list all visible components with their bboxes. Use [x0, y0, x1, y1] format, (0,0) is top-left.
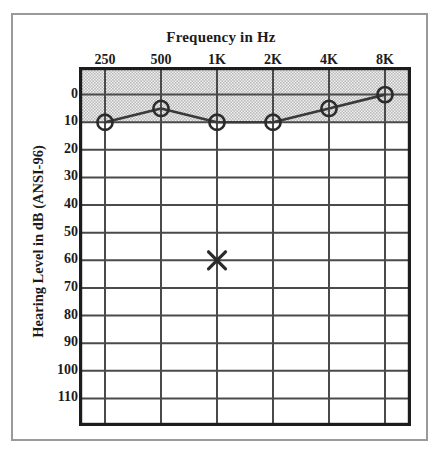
- y-tick-label-80: 80: [18, 307, 78, 323]
- air-conduction-marker: [265, 115, 280, 130]
- y-tick-label-50: 50: [18, 224, 78, 240]
- plot-area: [79, 67, 411, 426]
- air-conduction-marker: [377, 87, 392, 102]
- y-tick-label-100: 100: [18, 362, 78, 378]
- y-tick-label-0: 0: [18, 86, 78, 102]
- audiogram-figure: Frequency in Hz Hearing Level in dB (ANS…: [0, 0, 442, 458]
- air-conduction-marker: [97, 115, 112, 130]
- y-tick-label-110: 110: [18, 389, 78, 405]
- y-tick-label-70: 70: [18, 279, 78, 295]
- air-conduction-marker: [321, 101, 336, 116]
- y-tick-label-30: 30: [18, 168, 78, 184]
- air-conduction-marker: [153, 101, 168, 116]
- y-tick-label-10: 10: [18, 113, 78, 129]
- y-tick-label-90: 90: [18, 334, 78, 350]
- y-tick-label-40: 40: [18, 196, 78, 212]
- air-conduction-marker: [209, 115, 224, 130]
- audiogram-plot: [79, 67, 411, 426]
- y-tick-label-20: 20: [18, 141, 78, 157]
- y-tick-label-60: 60: [18, 251, 78, 267]
